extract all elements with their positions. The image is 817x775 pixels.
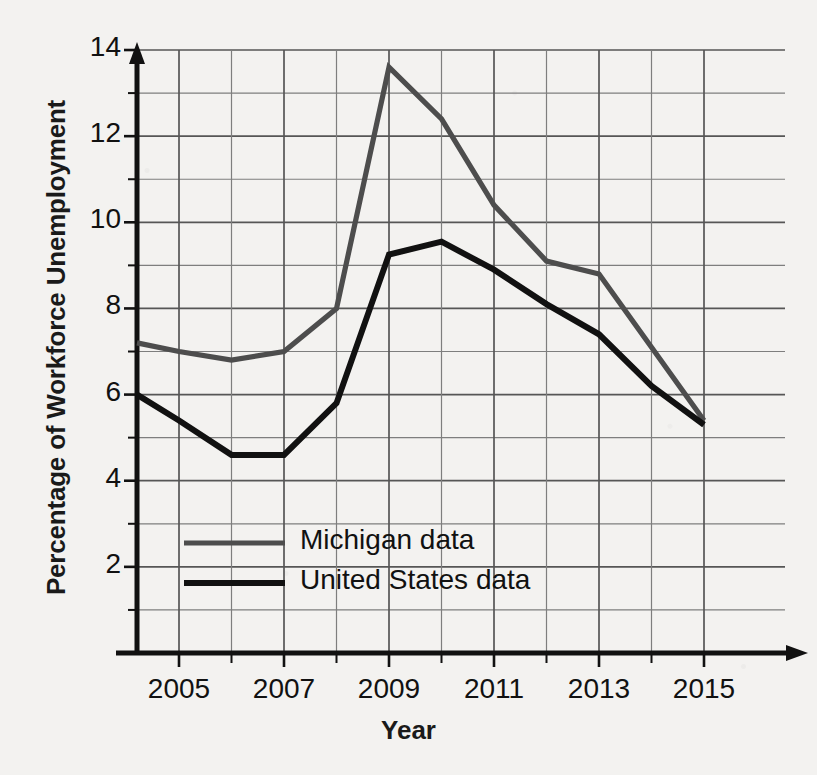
x-tick-label: 2007: [229, 673, 339, 705]
y-tick-label: 8: [65, 289, 121, 321]
legend-label-united-states: United States data: [300, 564, 530, 596]
series-line-united-states: [137, 242, 704, 455]
y-tick-label: 10: [65, 203, 121, 235]
y-tick-label: 6: [65, 376, 121, 408]
y-tick-label: 12: [65, 117, 121, 149]
x-tick-label: 2009: [334, 673, 444, 705]
x-tick-label: 2015: [649, 673, 759, 705]
x-tick-label: 2011: [439, 673, 549, 705]
y-tick-label: 14: [65, 31, 121, 63]
line-chart-plot: [0, 0, 817, 775]
chart-page: Percentage of Workforce Unemployment Yea…: [0, 0, 817, 775]
data-series-lines: [137, 67, 704, 455]
y-tick-label: 4: [65, 462, 121, 494]
x-tick-label: 2005: [124, 673, 234, 705]
legend-line-swatches: [184, 543, 285, 583]
legend-label-michigan: Michigan data: [300, 524, 474, 556]
x-tick-label: 2013: [544, 673, 654, 705]
y-tick-label: 2: [65, 548, 121, 580]
